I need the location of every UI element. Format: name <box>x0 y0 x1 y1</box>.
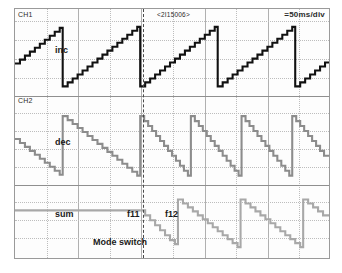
channel-separator-ch2-math <box>15 185 329 186</box>
grid-line-horizontal <box>15 167 329 168</box>
annotation-f11: f11 <box>127 209 140 219</box>
grid-line-horizontal <box>15 59 329 60</box>
grid-line-horizontal <box>15 40 329 41</box>
channel-2-label: CH2 <box>18 97 33 104</box>
grid-line-horizontal <box>15 202 329 203</box>
grid-line-horizontal <box>15 113 329 114</box>
grid-line-horizontal <box>15 21 329 22</box>
annotation-dec: dec <box>55 137 71 147</box>
annotation-inc: inc <box>55 45 68 55</box>
channel-separator-ch1-ch2 <box>15 96 329 97</box>
grid-line-horizontal <box>15 149 329 150</box>
timebase-label: =50ms/div <box>284 10 325 19</box>
trace-sum <box>15 199 329 247</box>
graticule-area: CH1 CH2 <2I15006> =50ms/div inc dec sum … <box>15 9 329 258</box>
scope-display: CH1 CH2 <2I15006> =50ms/div inc dec sum … <box>14 8 330 259</box>
grid-line-horizontal <box>15 78 329 79</box>
annotation-sum: sum <box>55 209 74 219</box>
grid-line-horizontal <box>15 220 329 221</box>
annotation-mode-switch: Mode switch <box>93 237 147 247</box>
grid-line-horizontal <box>15 238 329 239</box>
oscilloscope-screenshot: CH1 CH2 <2I15006> =50ms/div inc dec sum … <box>0 0 342 273</box>
annotation-f12: f12 <box>165 209 178 219</box>
channel-1-label: CH1 <box>18 11 33 18</box>
grid-line-horizontal <box>15 131 329 132</box>
capture-id-label: <2I15006> <box>157 11 190 18</box>
mode-switch-marker <box>143 9 144 258</box>
